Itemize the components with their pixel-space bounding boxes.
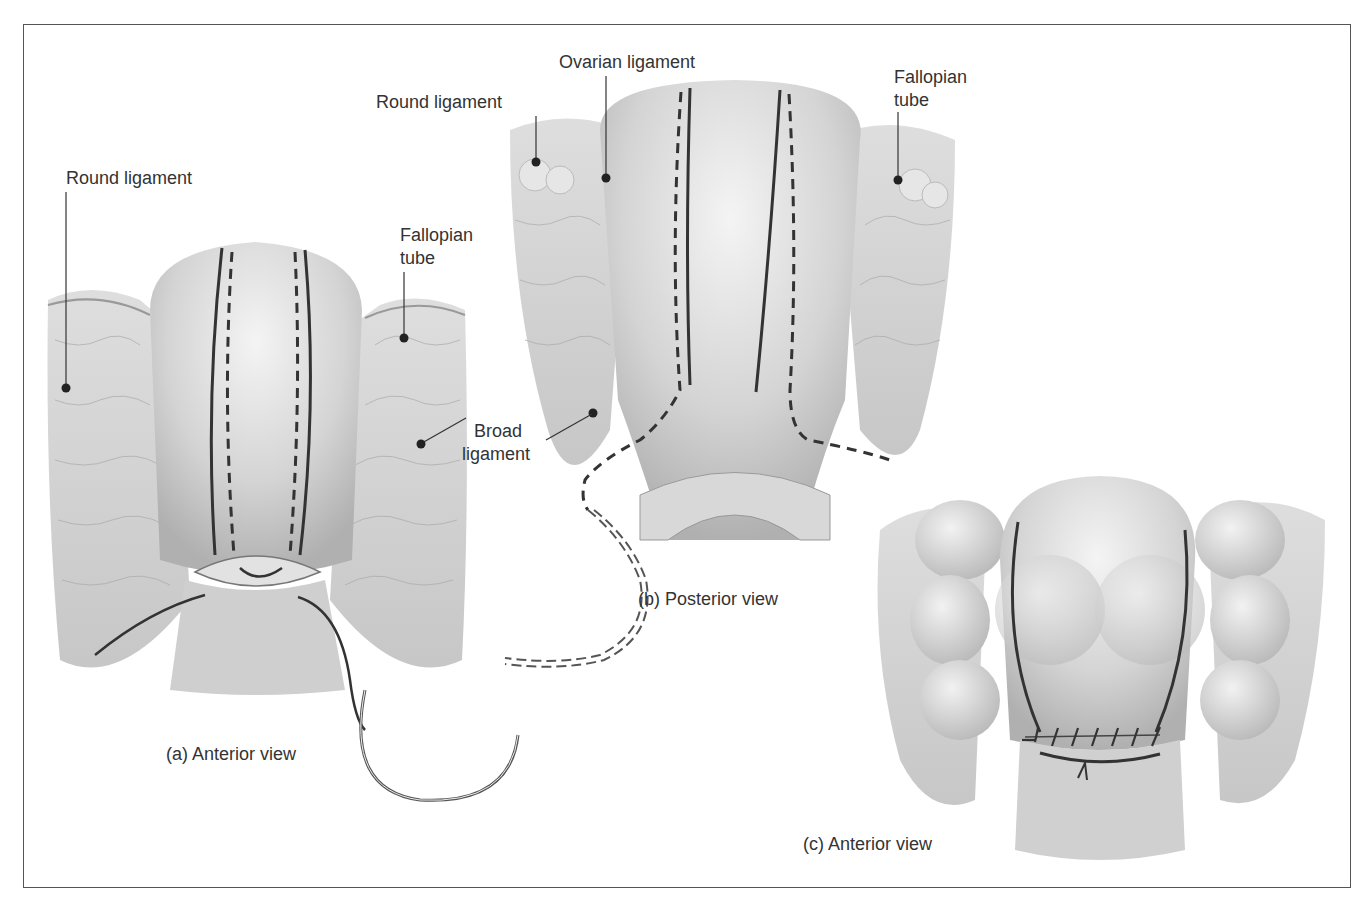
panel-a-fallopian-tube-label-line2: tube <box>400 247 435 269</box>
panel-a-round-ligament-label: Round ligament <box>66 167 192 189</box>
ovarian-ligament-label: Ovarian ligament <box>559 51 695 73</box>
illustration-canvas <box>0 0 1372 910</box>
panel-c-illustration <box>878 476 1326 860</box>
broad-ligament-label-line2: ligament <box>462 443 530 465</box>
panel-a-illustration <box>48 192 519 800</box>
panel-c-caption: (c) Anterior view <box>803 834 932 855</box>
panel-b-fallopian-tube-label-line2: tube <box>894 89 929 111</box>
panel-b-caption: (b) Posterior view <box>638 589 778 610</box>
panel-b-fallopian-tube-label-line1: Fallopian <box>894 66 967 88</box>
broad-ligament-label-line1: Broad <box>474 420 522 442</box>
panel-a-fallopian-tube-label-line1: Fallopian <box>400 224 473 246</box>
panel-b-round-ligament-label: Round ligament <box>376 91 502 113</box>
surgical-diagram: Round ligament Fallopian tube Broad liga… <box>0 0 1372 910</box>
panel-a-caption: (a) Anterior view <box>166 744 296 765</box>
